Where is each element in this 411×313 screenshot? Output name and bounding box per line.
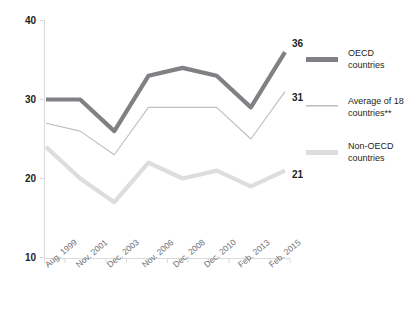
x-tick-labels: Aug. 1999 Nov. 2001 Dec. 2003 Nov. 2006 … <box>43 237 303 270</box>
y-tick-labels: 40 30 20 10 <box>25 15 37 263</box>
end-label-average: 31 <box>292 92 304 103</box>
x-tick-label: Aug. 1999 <box>43 237 79 270</box>
y-tick-marks <box>40 21 45 258</box>
legend-label-oecd-line1: OECD <box>348 48 375 58</box>
legend-label-oecd-line2: countries <box>348 60 385 70</box>
y-tick-label: 40 <box>25 15 37 26</box>
x-tick-label: Feb. 2015 <box>267 237 303 269</box>
legend-swatch-oecd <box>306 57 338 62</box>
x-tick-label: Dec. 2010 <box>202 237 238 270</box>
x-tick-label: Dec. 2003 <box>105 237 141 270</box>
line-chart: 40 30 20 10 36 <box>0 0 411 313</box>
series-group <box>46 52 285 202</box>
legend-label-non-oecd-line2: countries <box>348 153 385 163</box>
legend-swatch-non-oecd <box>306 150 338 155</box>
legend-label-average-line2: countries** <box>348 108 392 118</box>
x-tick-label: Nov. 2001 <box>74 237 110 269</box>
end-value-labels: 36 31 21 <box>292 38 304 180</box>
y-tick-label: 10 <box>25 252 37 263</box>
end-label-oecd: 36 <box>292 38 304 49</box>
chart-canvas: 40 30 20 10 36 <box>0 0 411 313</box>
x-tick-label: Nov. 2006 <box>140 237 176 269</box>
series-path-oecd <box>46 52 285 131</box>
y-tick-label: 20 <box>25 173 37 184</box>
legend-label-non-oecd-line1: Non-OECD <box>348 141 394 151</box>
y-tick-label: 30 <box>25 94 37 105</box>
series-path-non-oecd <box>46 147 285 202</box>
legend-label-average-line1: Average of 18 <box>348 96 404 106</box>
legend-swatch-average <box>306 105 338 107</box>
chart-legend: OECD countries Average of 18 countries**… <box>306 48 404 163</box>
x-tick-label: Dec. 2008 <box>171 237 207 270</box>
end-label-non-oecd: 21 <box>292 169 304 180</box>
x-tick-label: Feb. 2013 <box>236 237 272 269</box>
